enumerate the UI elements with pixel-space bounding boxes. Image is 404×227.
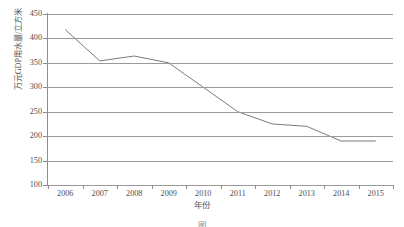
- gridline: [48, 38, 393, 39]
- y-axis-tick-label: 250: [0, 107, 42, 116]
- y-axis-tick-label: 150: [0, 156, 42, 165]
- y-axis-tick-label: 450: [0, 9, 42, 18]
- gridline: [48, 112, 393, 113]
- x-axis-tick-label: 2015: [356, 189, 396, 198]
- y-axis-tick-label: 400: [0, 33, 42, 42]
- gridline: [48, 63, 393, 64]
- y-axis-tick-label: 350: [0, 58, 42, 67]
- gridline: [48, 14, 393, 15]
- series-polyline: [65, 30, 376, 141]
- y-axis-tick-label: 300: [0, 82, 42, 91]
- line-series: [48, 14, 393, 185]
- y-axis-tick-label: 100: [0, 180, 42, 189]
- x-axis-title: 年份: [0, 198, 404, 210]
- figure-container: 万元GDP用水量/立方米 100150200250300350400450 20…: [0, 0, 404, 227]
- plot-area: [48, 14, 393, 185]
- y-axis-tick-label: 200: [0, 131, 42, 140]
- figure-caption: 图: [0, 219, 404, 227]
- gridline: [48, 161, 393, 162]
- gridline: [48, 87, 393, 88]
- gridline: [48, 136, 393, 137]
